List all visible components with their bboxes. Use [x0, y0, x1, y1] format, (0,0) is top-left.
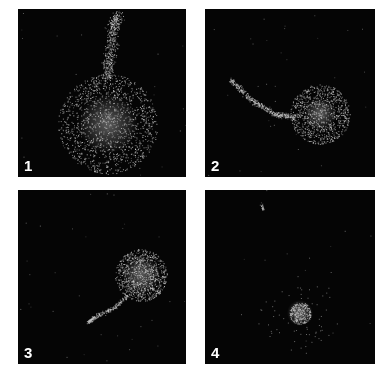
- particle-scene-2: [205, 9, 375, 177]
- panel-label-3: 3: [24, 345, 32, 360]
- particle-scene-4: [205, 190, 375, 364]
- panel-label-4: 4: [211, 345, 219, 360]
- panel-3: 3: [18, 190, 186, 364]
- panel-label-1: 1: [24, 158, 32, 173]
- panel-4: 4: [205, 190, 375, 364]
- panel-label-2: 2: [211, 158, 219, 173]
- particle-scene-1: [18, 9, 186, 177]
- panel-2: 2: [205, 9, 375, 177]
- particle-scene-3: [18, 190, 186, 364]
- panel-1: 1: [18, 9, 186, 177]
